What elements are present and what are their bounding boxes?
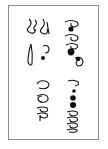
- glyph-group-bottom-left: [31, 78, 57, 122]
- glyph-group-bottom-right: [63, 78, 89, 134]
- glyph-group-top-left: [23, 16, 55, 68]
- glyph-group-top-right: [61, 18, 89, 68]
- document-page: [8, 5, 99, 140]
